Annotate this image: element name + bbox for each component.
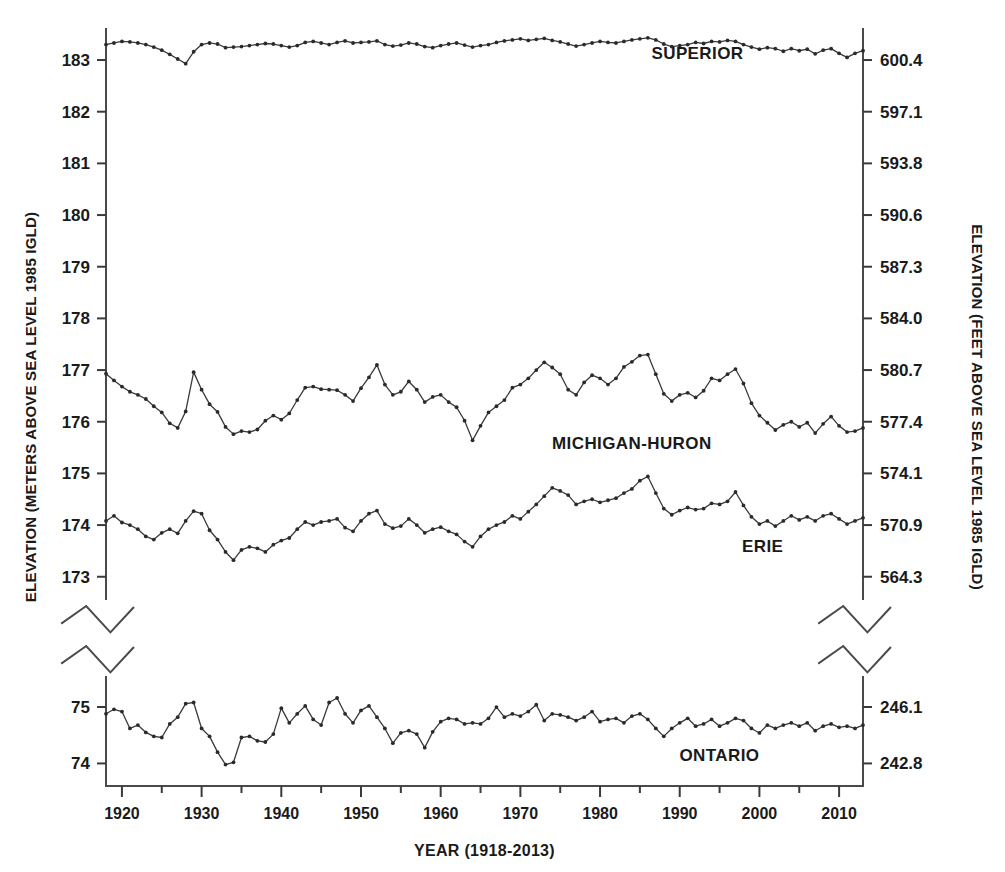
- data-point: [630, 360, 634, 364]
- data-point: [431, 730, 435, 734]
- series-label-michigan-huron: MICHIGAN-HURON: [552, 434, 712, 453]
- data-point: [765, 723, 769, 727]
- data-point: [813, 431, 817, 435]
- data-point: [399, 43, 403, 47]
- data-point: [574, 719, 578, 723]
- data-point: [407, 729, 411, 733]
- data-point: [287, 721, 291, 725]
- data-point: [566, 493, 570, 497]
- data-point: [343, 393, 347, 397]
- data-point: [383, 522, 387, 526]
- x-axis-title: YEAR (1918-2013): [414, 842, 555, 859]
- data-point: [295, 398, 299, 402]
- data-point: [765, 46, 769, 50]
- data-point: [542, 360, 546, 364]
- data-point: [837, 725, 841, 729]
- data-point: [160, 411, 164, 415]
- data-point: [789, 47, 793, 51]
- data-point: [622, 721, 626, 725]
- data-point: [104, 519, 108, 523]
- data-point: [144, 397, 148, 401]
- data-point: [479, 44, 483, 48]
- data-point: [391, 44, 395, 48]
- data-point: [367, 375, 371, 379]
- data-point: [144, 731, 148, 735]
- data-point: [256, 739, 260, 743]
- data-point: [224, 763, 228, 767]
- data-point: [311, 385, 315, 389]
- data-point: [487, 411, 491, 415]
- data-point: [104, 43, 108, 47]
- data-point: [582, 715, 586, 719]
- data-point: [510, 514, 514, 518]
- x-tick-label: 1930: [184, 805, 220, 822]
- data-point: [670, 513, 674, 517]
- data-point: [152, 404, 156, 408]
- data-point: [176, 715, 180, 719]
- data-point: [176, 57, 180, 61]
- data-point: [240, 429, 244, 433]
- data-point: [821, 514, 825, 518]
- data-point: [654, 727, 658, 731]
- data-point: [152, 45, 156, 49]
- data-point: [758, 414, 762, 418]
- series-label-superior: SUPERIOR: [651, 44, 743, 63]
- y-tick-label-left: 181: [62, 154, 90, 173]
- data-point: [773, 47, 777, 51]
- data-point: [758, 47, 762, 51]
- data-point: [789, 420, 793, 424]
- data-point: [279, 539, 283, 543]
- data-point: [351, 529, 355, 533]
- data-point: [694, 724, 698, 728]
- data-point: [295, 44, 299, 48]
- data-point: [136, 41, 140, 45]
- data-point: [726, 372, 730, 376]
- data-point: [256, 428, 260, 432]
- data-point: [128, 40, 132, 44]
- data-point: [534, 37, 538, 41]
- data-point: [861, 49, 865, 53]
- data-point: [598, 40, 602, 44]
- data-point: [566, 388, 570, 392]
- data-point: [781, 423, 785, 427]
- data-point: [558, 489, 562, 493]
- y-tick-label-right: 584.0: [880, 309, 923, 328]
- data-point: [837, 51, 841, 55]
- data-point: [439, 44, 443, 48]
- data-point: [526, 39, 530, 43]
- data-point: [327, 701, 331, 705]
- data-point: [447, 400, 451, 404]
- data-point: [447, 42, 451, 46]
- data-point: [431, 527, 435, 531]
- data-point: [136, 723, 140, 727]
- data-point: [287, 536, 291, 540]
- data-point: [487, 43, 491, 47]
- data-point: [192, 370, 196, 374]
- x-tick-label: 1950: [343, 805, 379, 822]
- data-point: [829, 722, 833, 726]
- data-point: [550, 486, 554, 490]
- data-point: [758, 731, 762, 735]
- data-point: [702, 389, 706, 393]
- data-point: [375, 509, 379, 513]
- data-point: [303, 41, 307, 45]
- y-tick-label-left: 178: [62, 309, 90, 328]
- data-point: [471, 721, 475, 725]
- data-point: [765, 519, 769, 523]
- data-point: [128, 523, 132, 527]
- data-point: [845, 430, 849, 434]
- x-tick-label: 1940: [264, 805, 300, 822]
- y-tick-label-left: 182: [62, 103, 90, 122]
- data-point: [184, 702, 188, 706]
- data-point: [168, 421, 172, 425]
- data-point: [224, 550, 228, 554]
- data-point: [303, 520, 307, 524]
- data-point: [598, 720, 602, 724]
- data-point: [503, 715, 507, 719]
- data-point: [120, 40, 124, 44]
- data-point: [271, 732, 275, 736]
- data-point: [439, 720, 443, 724]
- data-point: [248, 430, 252, 434]
- data-point: [295, 527, 299, 531]
- x-tick-label: 2010: [821, 805, 857, 822]
